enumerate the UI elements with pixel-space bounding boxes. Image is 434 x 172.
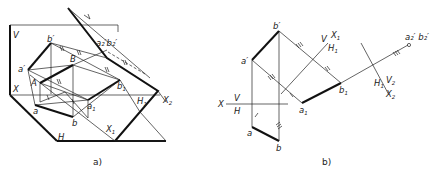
label-h1: H1 (328, 43, 338, 54)
label-v-plane: V (13, 30, 20, 40)
x1-axis (281, 43, 328, 94)
label-a2-b2: a₂′b₂′ (96, 38, 117, 48)
segment-AB (40, 65, 73, 83)
segment-a-prime-b-prime (28, 43, 51, 70)
label-b1: b1 (117, 81, 126, 92)
label-a1: a1 (299, 105, 308, 116)
label-a: a (247, 128, 252, 138)
label-h-plane: H (58, 132, 65, 142)
label-x2: X2 (162, 95, 173, 106)
segment-a1-b1 (88, 80, 120, 100)
label-x-axis: X (12, 84, 19, 94)
label-v2: V2 (386, 75, 396, 86)
figure-b: X V H b′ a′ a b a1 b1 V H1 X1 H1 V2 X2 a… (217, 21, 429, 167)
figure-a: V H X b′ a′ A B a b a1 b1 a₂′b₂′ H1 X1 X… (10, 8, 173, 167)
caption-a: a) (93, 157, 102, 167)
label-a-prime: a′ (18, 64, 25, 74)
label-h: H (234, 106, 241, 116)
label-A: A (30, 78, 37, 88)
label-a: a (33, 106, 38, 116)
label-b-prime: b′ (47, 34, 54, 44)
label-B: B (70, 54, 76, 64)
label-b: b (72, 118, 77, 128)
h-plane-left-edge (10, 95, 57, 141)
h1-plane-edge (68, 8, 158, 141)
label-h1b: H1 (374, 78, 384, 89)
label-b-prime: b′ (273, 21, 280, 31)
label-x1: X1 (330, 30, 340, 41)
label-x2: X2 (385, 89, 396, 100)
label-v: V (234, 93, 241, 103)
label-v-axis1: V (321, 34, 328, 44)
projection-diagram: V H X b′ a′ A B a b a1 b1 a₂′b₂′ H1 X1 X… (0, 0, 434, 172)
label-b: b (276, 143, 281, 153)
label-a2-b2: a₂′ b₂′ (405, 32, 429, 42)
segment-ab (35, 105, 73, 117)
caption-b: b) (322, 157, 331, 167)
label-h1: H1 (137, 96, 147, 107)
label-b1: b1 (339, 85, 348, 96)
label-x: X (217, 99, 224, 109)
label-a-prime: a′ (241, 56, 248, 66)
segment-a-prime-b-prime (252, 31, 279, 60)
label-x1: X1 (105, 124, 115, 135)
segment-ab (252, 127, 279, 141)
segment-a1-b1 (302, 83, 341, 103)
label-a1: a1 (87, 101, 96, 112)
